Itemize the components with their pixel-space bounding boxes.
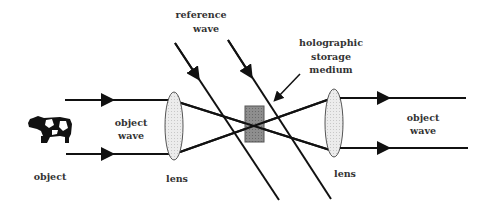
svg-text:wave: wave	[409, 125, 436, 136]
svg-text:reference: reference	[176, 9, 227, 20]
arrow-icon	[175, 43, 196, 75]
svg-text:medium: medium	[309, 64, 352, 75]
medium-pointer-arrow	[277, 74, 300, 98]
svg-text:object: object	[407, 112, 440, 123]
svg-text:holographic: holographic	[299, 37, 363, 48]
svg-text:wave: wave	[192, 23, 219, 34]
lens-left	[165, 92, 183, 160]
object-wave-left-label: object wave	[115, 117, 148, 141]
arrow-icon	[228, 40, 249, 73]
holographic-medium-label: holographic storage medium	[299, 37, 363, 75]
lens-right	[325, 89, 343, 157]
object-label: object	[34, 171, 67, 182]
lens-left-label: lens	[166, 173, 188, 184]
holography-diagram: reference wave holographic storage mediu…	[0, 0, 491, 214]
svg-text:storage: storage	[311, 51, 351, 62]
svg-text:object: object	[115, 117, 148, 128]
reference-wave-label: reference wave	[176, 9, 227, 34]
svg-text:wave: wave	[117, 130, 144, 141]
lens-right-label: lens	[334, 168, 356, 179]
object-wave-right-label: object wave	[407, 112, 440, 136]
cow-icon	[28, 116, 72, 143]
